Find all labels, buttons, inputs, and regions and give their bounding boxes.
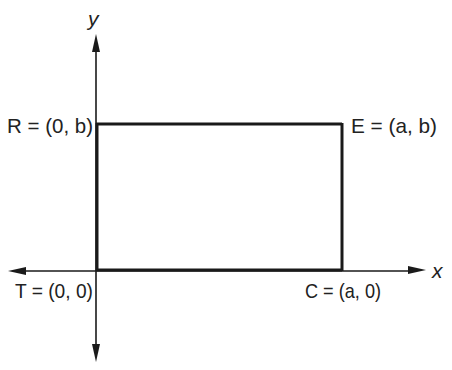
x-axis-left-arrow-icon (8, 267, 26, 275)
y-axis-label: y (86, 7, 100, 30)
coordinate-diagram: y x R = (0, b) E = (a, b) T = (0, 0) C =… (0, 0, 452, 370)
diagram-svg: y x R = (0, b) E = (a, b) T = (0, 0) C =… (0, 0, 452, 370)
point-label-t: T = (0, 0) (15, 279, 93, 302)
point-label-r: R = (0, b) (7, 114, 93, 137)
x-axis-right-arrow-icon (408, 266, 426, 274)
y-axis-up-arrow-icon (92, 34, 100, 52)
point-label-e: E = (a, b) (351, 114, 437, 137)
y-axis-down-arrow-icon (92, 344, 100, 362)
point-label-c: C = (a, 0) (305, 279, 381, 302)
x-axis-label: x (431, 259, 444, 282)
rectangle (96, 123, 342, 271)
